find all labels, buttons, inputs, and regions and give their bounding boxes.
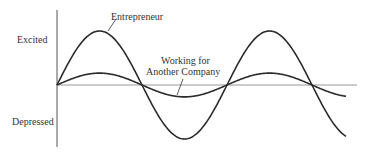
depressed-label: Depressed bbox=[12, 116, 54, 127]
working-label-line2: Another Company bbox=[146, 66, 220, 77]
working-label-line1: Working for bbox=[161, 55, 210, 66]
working-leader-line bbox=[177, 79, 183, 95]
excited-label: Excited bbox=[17, 34, 48, 45]
entrepreneur-label: Entrepreneur bbox=[111, 11, 163, 22]
